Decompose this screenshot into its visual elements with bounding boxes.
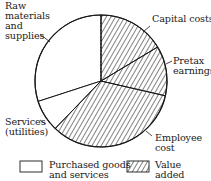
label-text: (utilities) <box>5 127 48 137</box>
label-capital-costs: Capital costs <box>152 14 211 24</box>
label-text: supplies <box>5 31 50 41</box>
leader-employee <box>146 131 152 136</box>
label-text: earnings <box>173 66 211 76</box>
legend-value-added: Value added <box>155 160 184 180</box>
label-services: Services (utilities) <box>5 117 48 137</box>
label-pretax-earnings: Pretax earnings <box>173 56 211 76</box>
leader-pretax <box>166 61 172 64</box>
legend-purchased: Purchased goods and services <box>49 160 131 180</box>
label-raw-materials: Raw materials and supplies <box>5 1 50 41</box>
legend-text: added <box>155 170 184 180</box>
label-text: cost <box>155 143 202 153</box>
leader-capital <box>143 26 150 32</box>
legend-swatch-plain <box>20 161 42 172</box>
legend-text: and services <box>49 170 131 180</box>
label-employee-cost: Employee cost <box>155 133 202 153</box>
